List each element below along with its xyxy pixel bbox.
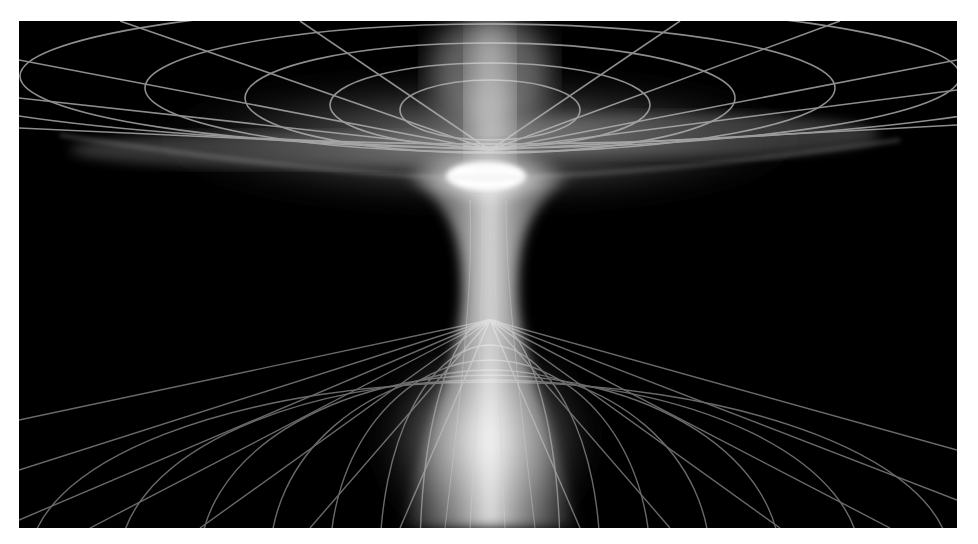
wormhole-illustration	[19, 21, 957, 528]
wormhole-graphic	[19, 21, 957, 528]
